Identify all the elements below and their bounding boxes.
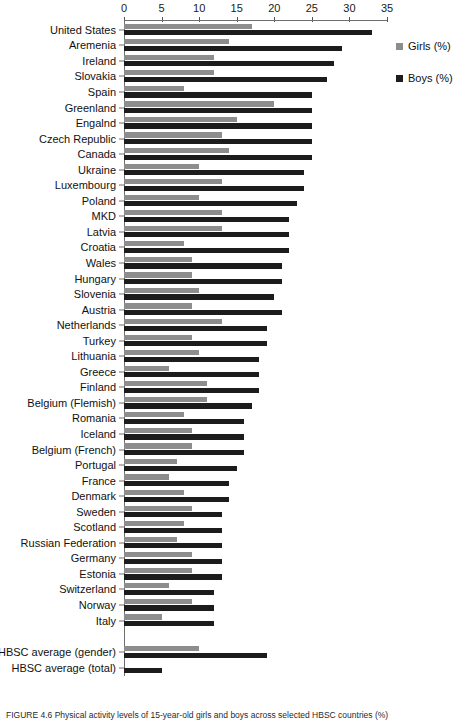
- category-label: Estonia: [79, 568, 116, 580]
- category-label: Sweden: [76, 506, 116, 518]
- bar-girls: [124, 552, 192, 557]
- row-spacer: [0, 628, 470, 644]
- bar-boys: [124, 450, 244, 455]
- chart-row: Austria: [0, 302, 470, 318]
- category-label: Belgium (French): [32, 444, 116, 456]
- bar-group: [124, 644, 470, 660]
- x-tick-label: 25: [306, 2, 318, 15]
- bar-girls: [124, 614, 162, 619]
- chart-row: Switzerland: [0, 582, 470, 598]
- bar-girls: [124, 39, 229, 44]
- legend-label: Boys (%): [408, 72, 453, 84]
- category-label: MKD: [92, 210, 116, 222]
- chart-row: Belgium (Flemish): [0, 395, 470, 411]
- category-label: Lithuania: [71, 350, 116, 362]
- bar-girls: [124, 350, 199, 355]
- bar-girls: [124, 646, 199, 651]
- category-label: Slovenia: [74, 288, 116, 300]
- category-label: Wales: [86, 257, 116, 269]
- category-label: Scotland: [73, 521, 116, 533]
- bar-boys: [124, 403, 252, 408]
- bar-girls: [124, 257, 192, 262]
- bar-girls: [124, 226, 222, 231]
- category-label: HBSC average (gender): [0, 646, 116, 658]
- bar-boys: [124, 419, 244, 424]
- bar-girls: [124, 381, 207, 386]
- bar-girls: [124, 459, 177, 464]
- x-tick-label: 5: [159, 2, 165, 15]
- chart-row: Portugal: [0, 457, 470, 473]
- chart-row: Ukraine: [0, 162, 470, 178]
- category-label: Turkey: [83, 335, 116, 347]
- bar-boys: [124, 186, 304, 191]
- category-label: Netherlands: [57, 319, 116, 331]
- chart-row: Latvia: [0, 224, 470, 240]
- bar-boys: [124, 108, 312, 113]
- bar-girls: [124, 101, 274, 106]
- legend-item: Girls (%): [396, 40, 470, 52]
- bar-group: [124, 162, 470, 178]
- bar-boys: [124, 434, 244, 439]
- bar-boys: [124, 543, 222, 548]
- bar-boys: [124, 263, 282, 268]
- bar-girls: [124, 506, 192, 511]
- bar-boys: [124, 170, 304, 175]
- chart-plot-area: 05101520253035 United StatesAremeniaIrel…: [0, 0, 470, 700]
- bar-boys: [124, 294, 274, 299]
- bar-group: [124, 317, 470, 333]
- bar-boys: [124, 232, 289, 237]
- bar-boys: [124, 341, 267, 346]
- x-tick-label: 0: [121, 2, 127, 15]
- bar-group: [124, 566, 470, 582]
- chart-legend: Girls (%)Boys (%): [396, 40, 470, 104]
- chart-row: Hungary: [0, 271, 470, 287]
- chart-row: Slovenia: [0, 286, 470, 302]
- bar-boys: [124, 30, 372, 35]
- bar-group: [124, 333, 470, 349]
- bar-girls: [124, 272, 192, 277]
- bar-boys: [124, 61, 334, 66]
- bar-girls: [124, 24, 252, 29]
- chart-rows: United StatesAremeniaIrelandSlovakiaSpai…: [0, 22, 470, 675]
- bar-boys: [124, 528, 222, 533]
- bar-group: [124, 660, 470, 676]
- bar-boys: [124, 248, 289, 253]
- bar-group: [124, 348, 470, 364]
- bar-group: [124, 473, 470, 489]
- bar-girls: [124, 397, 207, 402]
- bar-girls: [124, 288, 199, 293]
- bar-girls: [124, 241, 184, 246]
- category-label: United States: [50, 24, 116, 36]
- chart-row: Russian Federation: [0, 535, 470, 551]
- bar-boys: [124, 279, 282, 284]
- bar-girls: [124, 117, 237, 122]
- bar-boys: [124, 653, 267, 658]
- bar-group: [124, 597, 470, 613]
- bar-boys: [124, 388, 259, 393]
- chart-row: Sweden: [0, 504, 470, 520]
- chart-row: Croatia: [0, 240, 470, 256]
- figure-caption: FIGURE 4.6 Physical activity levels of 1…: [6, 710, 468, 720]
- bar-girls: [124, 428, 192, 433]
- category-label: Belgium (Flemish): [27, 397, 116, 409]
- chart-row: France: [0, 473, 470, 489]
- bar-boys: [124, 372, 259, 377]
- category-label: France: [82, 475, 116, 487]
- bar-girls: [124, 568, 192, 573]
- bar-group: [124, 442, 470, 458]
- category-label: Greece: [80, 366, 116, 378]
- chart-row: Germany: [0, 551, 470, 567]
- bar-boys: [124, 46, 342, 51]
- category-label: HBSC average (total): [11, 662, 116, 674]
- bar-group: [124, 131, 470, 147]
- x-tick-label: 35: [381, 2, 393, 15]
- bar-boys: [124, 574, 222, 579]
- bar-boys: [124, 310, 282, 315]
- bar-group: [124, 177, 470, 193]
- chart-row: Norway: [0, 597, 470, 613]
- category-label: Ireland: [82, 55, 116, 67]
- category-label: Luxembourg: [55, 179, 116, 191]
- bar-boys: [124, 217, 289, 222]
- legend-item: Boys (%): [396, 72, 470, 84]
- category-label: Switzerland: [59, 583, 116, 595]
